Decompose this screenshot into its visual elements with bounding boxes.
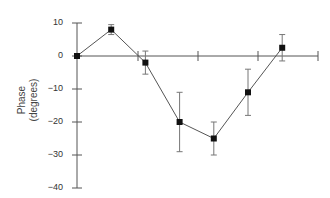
y-tick-label: −40 (33, 182, 63, 192)
data-point (74, 53, 80, 59)
data-point (245, 89, 251, 95)
y-tick-label: −10 (33, 83, 63, 93)
data-point (142, 60, 148, 66)
data-point (211, 136, 217, 142)
data-point (177, 119, 183, 125)
phase-chart (0, 0, 330, 198)
data-point (108, 27, 114, 33)
y-tick-label: −30 (33, 149, 63, 159)
y-axis-label-line1: Phase (16, 70, 28, 130)
y-tick-label: −20 (33, 116, 63, 126)
data-point (279, 45, 285, 51)
y-tick-label: 0 (33, 50, 63, 60)
y-tick-label: 10 (33, 17, 63, 27)
